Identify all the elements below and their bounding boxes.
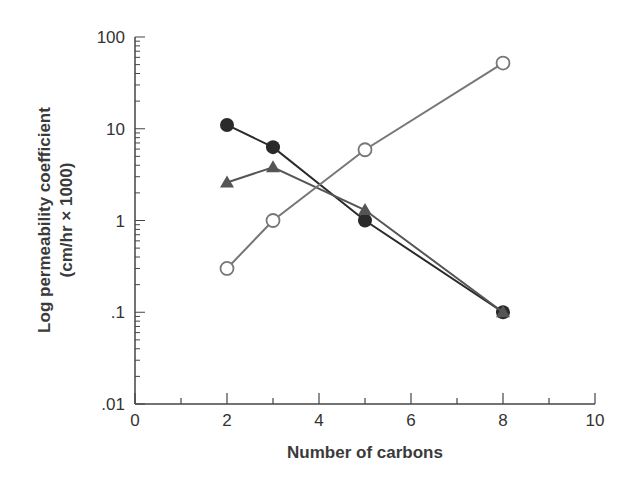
series-line	[227, 63, 503, 268]
open-circle-marker	[267, 214, 280, 227]
filled-circle-marker	[220, 118, 234, 132]
triangle-marker	[358, 203, 372, 215]
x-tick-label: 4	[314, 411, 323, 430]
y-tick-label: .01	[101, 395, 125, 414]
x-tick-label: 8	[498, 411, 507, 430]
open-circle-marker	[497, 57, 510, 70]
series-filled-triangles	[220, 160, 510, 317]
y-tick-label: 100	[97, 28, 125, 47]
open-circle-marker	[221, 262, 234, 275]
series-open-circles	[221, 57, 510, 275]
x-tick-label: 10	[586, 411, 605, 430]
x-axis-title: Number of carbons	[287, 443, 443, 462]
axis-labels: Number of carbons Log permeability coeff…	[35, 107, 443, 462]
axes: 0246810100101.1.01	[97, 28, 605, 430]
y-tick-label: 1	[116, 212, 125, 231]
y-axis-subtitle: (cm/hr × 1000)	[57, 163, 76, 278]
series-line	[227, 167, 503, 312]
y-tick-label: .1	[111, 303, 125, 322]
triangle-marker	[266, 160, 280, 172]
filled-circle-marker	[358, 214, 372, 228]
x-tick-label: 0	[130, 411, 139, 430]
series-layer	[220, 57, 510, 320]
chart: 0246810100101.1.01 Number of carbons Log…	[0, 0, 633, 483]
x-tick-label: 2	[222, 411, 231, 430]
x-tick-label: 6	[406, 411, 415, 430]
open-circle-marker	[359, 143, 372, 156]
y-axis-title: Log permeability coefficient	[35, 107, 54, 333]
filled-circle-marker	[266, 140, 280, 154]
y-tick-label: 10	[106, 120, 125, 139]
